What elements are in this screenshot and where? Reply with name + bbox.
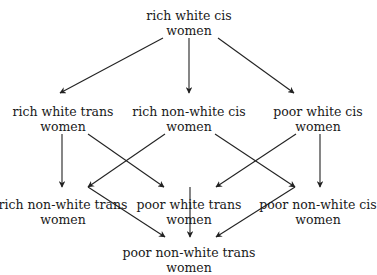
node-poor-non-white-cis-women: poor non-white cis women xyxy=(259,197,376,227)
node-label-line2: women xyxy=(12,119,113,134)
node-rich-non-white-trans-women: rich non-white trans women xyxy=(0,197,127,227)
node-label-line2: women xyxy=(132,119,245,134)
node-label-line2: women xyxy=(259,212,376,227)
edge-arrow-n0-n3 xyxy=(218,38,294,93)
node-rich-white-trans-women: rich white trans women xyxy=(12,104,113,134)
node-label-line1: poor white trans xyxy=(136,197,241,212)
node-label-line1: rich white cis xyxy=(146,8,232,23)
node-poor-white-trans-women: poor white trans women xyxy=(136,197,241,227)
node-label-line1: poor white cis xyxy=(273,104,363,119)
node-label-line2: women xyxy=(273,119,363,134)
edge-arrow-n3-n5 xyxy=(216,134,296,187)
lattice-diagram: rich white cis women rich white trans wo… xyxy=(0,0,377,275)
node-poor-non-white-trans-women: poor non-white trans women xyxy=(123,245,256,275)
node-poor-white-cis-women: poor white cis women xyxy=(273,104,363,134)
node-label-line2: women xyxy=(136,212,241,227)
node-label-line2: women xyxy=(0,212,127,227)
node-label-line1: rich non-white cis xyxy=(132,104,245,119)
node-label-line2: women xyxy=(146,23,232,38)
node-rich-white-cis-women: rich white cis women xyxy=(146,8,232,38)
node-label-line1: rich non-white trans xyxy=(0,197,127,212)
edges-layer xyxy=(0,0,377,275)
node-label-line1: poor non-white trans xyxy=(123,245,256,260)
node-label-line2: women xyxy=(123,260,256,275)
node-rich-non-white-cis-women: rich non-white cis women xyxy=(132,104,245,134)
node-label-line1: rich white trans xyxy=(12,104,113,119)
edge-arrow-n2-n6 xyxy=(215,134,295,187)
node-label-line1: poor non-white cis xyxy=(259,197,376,212)
edge-arrow-n0-n1 xyxy=(60,38,163,93)
